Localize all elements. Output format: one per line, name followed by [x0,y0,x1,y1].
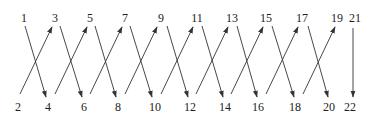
crossing-arrow-diagram: 13579111315171921246810121416182022 [0,0,376,123]
node-label-2: 2 [15,100,21,114]
node-label-22: 22 [344,100,356,114]
node-label-7: 7 [122,11,128,25]
arrow-14-to-15 [231,27,263,94]
node-label-17: 17 [296,11,308,25]
node-label-8: 8 [115,100,121,114]
arrow-2-to-3 [20,27,52,94]
arrow-15-to-18 [272,26,294,97]
node-label-3: 3 [52,11,58,25]
node-label-5: 5 [87,11,93,25]
node-label-6: 6 [81,100,87,114]
node-label-19: 19 [331,11,343,25]
node-label-21: 21 [349,11,361,25]
arrow-10-to-11 [161,27,193,94]
arrow-18-to-19 [303,27,335,94]
arrow-11-to-14 [202,26,223,97]
node-label-16: 16 [252,100,264,114]
arrow-8-to-9 [125,27,157,94]
arrow-9-to-12 [167,26,188,97]
node-label-4: 4 [45,100,51,114]
node-labels: 13579111315171921246810121416182022 [15,11,361,114]
arrow-4-to-5 [55,27,87,94]
node-label-9: 9 [158,11,164,25]
node-label-12: 12 [184,100,196,114]
node-label-10: 10 [149,100,161,114]
node-label-13: 13 [226,11,238,25]
diagram-canvas: 13579111315171921246810121416182022 [0,0,376,123]
node-label-1: 1 [21,11,27,25]
arrow-edges [20,26,353,97]
node-label-11: 11 [191,11,203,25]
arrow-6-to-7 [90,27,122,94]
node-label-18: 18 [289,100,301,114]
arrow-17-to-20 [308,26,328,97]
node-label-20: 20 [323,100,335,114]
arrow-16-to-17 [266,27,298,94]
node-label-15: 15 [260,11,272,25]
node-label-14: 14 [219,100,231,114]
arrow-12-to-13 [196,27,228,94]
